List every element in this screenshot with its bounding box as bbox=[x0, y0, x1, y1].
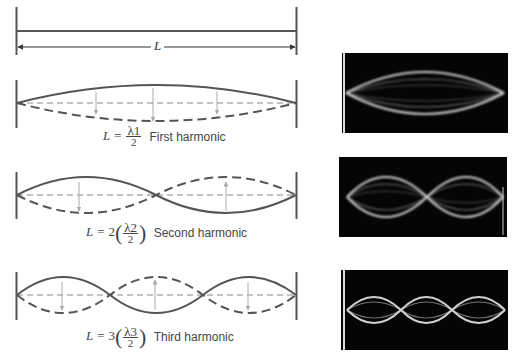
fraction: λ1 2 bbox=[126, 126, 141, 147]
right-paren: ) bbox=[139, 324, 146, 349]
equation-lhs: L = bbox=[103, 128, 122, 143]
fraction-denominator: 2 bbox=[128, 234, 134, 244]
fraction-denominator: 2 bbox=[131, 137, 137, 147]
left-paren: ( bbox=[115, 220, 122, 245]
harmonic-name: Third harmonic bbox=[154, 330, 234, 344]
left-paren: ( bbox=[115, 324, 122, 349]
third-harmonic-diagram bbox=[17, 272, 297, 320]
first-harmonic-diagram bbox=[17, 80, 297, 128]
second-harmonic-diagram bbox=[17, 172, 297, 219]
right-paren: ) bbox=[139, 220, 146, 245]
second-harmonic-label: L = 2( λ2 2 ) Second harmonic bbox=[86, 220, 247, 246]
dashed-wave-curve bbox=[17, 103, 296, 121]
harmonic-name: First harmonic bbox=[150, 130, 226, 144]
second-harmonic-photo bbox=[339, 157, 507, 237]
third-harmonic-label: L = 3( λ3 2 ) Third harmonic bbox=[86, 324, 234, 350]
solid-wave-curve bbox=[17, 85, 296, 103]
first-harmonic-photo bbox=[342, 53, 508, 133]
equation-lhs: L = bbox=[86, 328, 105, 343]
equation-lhs: L = bbox=[86, 224, 105, 239]
fraction-denominator: 2 bbox=[128, 338, 134, 348]
harmonic-name: Second harmonic bbox=[154, 226, 247, 240]
fraction: λ2 2 bbox=[123, 223, 138, 244]
third-harmonic-photo bbox=[341, 270, 508, 350]
fraction-numerator: λ2 bbox=[123, 223, 138, 234]
fraction: λ3 2 bbox=[123, 327, 138, 348]
fraction-numerator: λ3 bbox=[123, 327, 138, 338]
first-harmonic-label: L = λ1 2 First harmonic bbox=[103, 126, 226, 147]
length-label: L bbox=[151, 38, 164, 54]
